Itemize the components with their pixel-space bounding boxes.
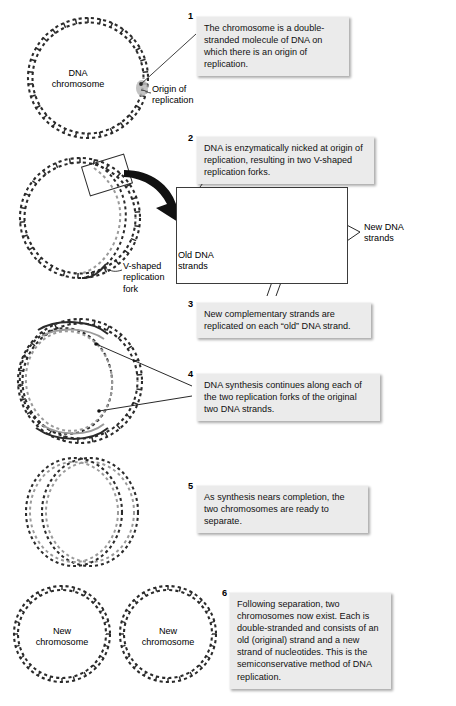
callout-step-2: DNA is enzymatically nicked at origin of… <box>196 136 374 184</box>
near-complete-ring-left <box>26 458 122 566</box>
nicked-ring-inner <box>25 163 136 274</box>
callout-step-5: As synthesis nears completion, the two c… <box>196 485 368 533</box>
theta-outer-ring-inner <box>23 324 138 439</box>
near-complete-ring-right-new <box>46 462 134 562</box>
step-number-3: 3 <box>188 299 193 309</box>
leader-line-v-fork-label <box>105 268 122 271</box>
callout-step-3: New complementary strands are replicated… <box>196 302 371 338</box>
leader-dot-stage3-lower <box>97 409 101 413</box>
callout-step-6: Following separation, two chromosomes no… <box>229 592 391 689</box>
step-number-1: 1 <box>188 11 193 21</box>
label-new-chromosome-right: New chromosome <box>128 626 208 649</box>
callout-step-4: DNA synthesis continues along each of th… <box>196 373 380 421</box>
replication-bubble-new-strand <box>83 168 120 273</box>
label-new-chromosome-left: New chromosome <box>22 626 102 649</box>
near-complete-ring-left-new <box>30 462 118 562</box>
leader-dot-origin <box>139 82 143 86</box>
step-number-4: 4 <box>188 369 193 379</box>
label-origin-of-replication: Origin of replication <box>152 84 212 107</box>
stage-3-theta-structure <box>13 319 192 444</box>
inset-pointer-arrow <box>124 170 183 222</box>
step-number-2: 2 <box>188 133 193 143</box>
label-old-dna-strands: Old DNA strands <box>178 250 238 273</box>
stage-4-near-complete <box>26 458 138 566</box>
step-number-5: 5 <box>188 481 193 491</box>
step-number-6: 6 <box>222 588 227 598</box>
theta-outer-ring <box>18 319 142 443</box>
leader-line-origin-to-step1 <box>141 34 196 84</box>
near-complete-ring-right <box>42 458 138 566</box>
callout-step-1: The chromosome is a double-stranded mole… <box>196 16 349 76</box>
dna-replication-figure: DNA chromosome Origin of replication V-s… <box>0 0 456 706</box>
label-new-dna-strands: New DNA strands <box>364 222 434 245</box>
theta-inner-loop-old <box>13 322 119 440</box>
label-dna-chromosome: DNA chromosome <box>36 68 120 91</box>
nicked-ring-outer <box>20 158 140 278</box>
leader-dot-stage3-upper <box>94 342 98 346</box>
